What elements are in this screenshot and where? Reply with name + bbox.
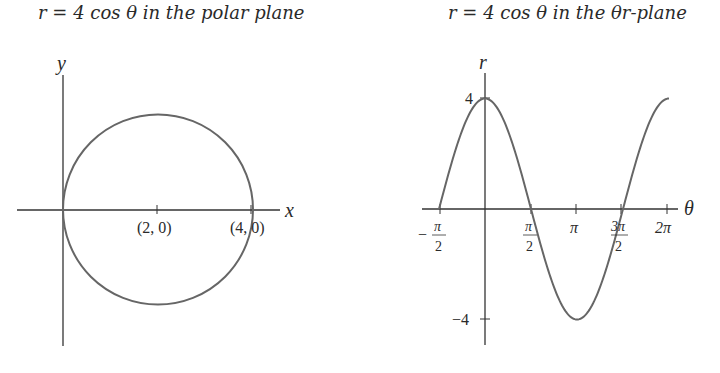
figure-canvas: y x (2, 0) (4, 0) r θ 4 −4 − π 2 π 2: [0, 0, 720, 373]
svg-text:π: π: [434, 219, 442, 234]
r-axis-label: r: [479, 51, 487, 73]
point-label-4-0: (4, 0): [230, 219, 265, 237]
theta-r-plane-plot: r θ 4 −4 − π 2 π 2 π 3π 2 2π: [418, 51, 694, 345]
x-axis-label: x: [284, 199, 294, 221]
svg-text:3π: 3π: [610, 219, 626, 234]
svg-text:2: 2: [615, 239, 622, 254]
svg-text:π: π: [525, 219, 533, 234]
svg-text:2: 2: [435, 239, 442, 254]
svg-text:2: 2: [526, 239, 533, 254]
theta-tick-label-2pi: 2π: [655, 219, 672, 236]
theta-tick-label-neg-pi-2: − π 2: [418, 219, 446, 254]
svg-text:−: −: [418, 226, 427, 243]
y-axis-label: y: [55, 52, 66, 75]
r-tick-label-4: 4: [465, 90, 473, 107]
r-tick-label-neg-4: −4: [452, 311, 469, 328]
point-label-2-0: (2, 0): [137, 219, 172, 237]
polar-plane-plot: y x (2, 0) (4, 0): [17, 52, 294, 346]
theta-tick-label-pi: π: [570, 219, 579, 236]
theta-axis-label: θ: [684, 197, 694, 219]
